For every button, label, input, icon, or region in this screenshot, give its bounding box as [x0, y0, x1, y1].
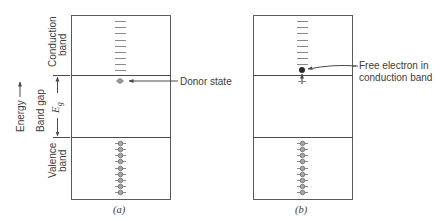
gap-symbol: E g: [50, 102, 64, 114]
panel-a-valence-electrons: [115, 141, 126, 195]
side-labels: Conduction band Valence band Band gap En…: [15, 16, 70, 178]
panel-a-caption: (a): [113, 204, 126, 216]
donor-state-icon: [116, 79, 124, 84]
panel-a-conduction-states: [115, 22, 126, 71]
panel-b-conduction-states: [297, 22, 308, 65]
band-diagram: Donor state: [0, 0, 435, 220]
energy-axis-label: Energy: [15, 100, 26, 132]
valence-band-label-2: band: [57, 150, 68, 172]
panel-b-caption: (b): [295, 204, 308, 216]
donor-state-label: Donor state: [180, 76, 232, 87]
free-electron-pointer: [308, 65, 356, 69]
panel-a: Donor state: [71, 16, 232, 217]
gap-symbol-E: E: [50, 106, 61, 114]
free-electron-icon: [299, 67, 305, 73]
band-gap-label: Band gap: [35, 89, 46, 132]
panel-b-valence-electrons: [297, 141, 308, 195]
free-electron-label-1: Free electron in: [359, 60, 428, 71]
conduction-band-label-2: band: [57, 34, 68, 56]
free-electron-label-2: conduction band: [359, 72, 432, 83]
gap-symbol-sub: g: [55, 102, 64, 106]
panel-b: Free electron in conduction band: [253, 16, 432, 217]
